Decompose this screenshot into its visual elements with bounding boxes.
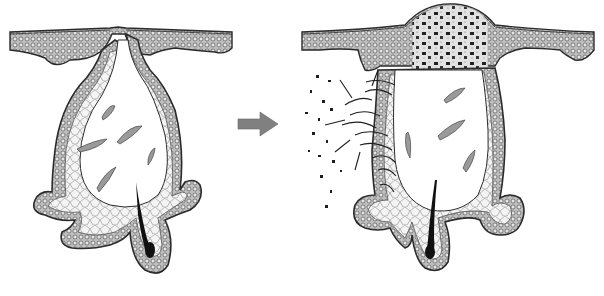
hair-bulb-right	[425, 245, 435, 259]
hair-bulb-left	[145, 242, 155, 258]
panel-normal-follicle	[10, 27, 232, 273]
follicle-lumen-left	[80, 40, 167, 207]
diagram-canvas	[0, 0, 604, 296]
panel-ruptured-follicle	[302, 4, 594, 271]
transition-arrow-icon	[238, 112, 278, 136]
comedone-plug	[412, 5, 488, 72]
debris-particles	[305, 75, 342, 208]
